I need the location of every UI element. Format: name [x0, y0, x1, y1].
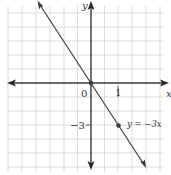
origin-label: 0: [81, 88, 87, 99]
y-axis: [88, 1, 95, 170]
y-tick-neg3-label: −3: [70, 120, 85, 131]
x-axis: [7, 80, 169, 87]
coordinate-plane: y x 0 1 −3 y = −3x: [0, 0, 171, 175]
point-1-neg3: [116, 123, 121, 128]
x-axis-label: x: [166, 88, 171, 99]
x-tick-1-label: 1: [116, 88, 122, 98]
line-equation-label: y = −3x: [126, 119, 162, 129]
point-origin: [89, 81, 94, 86]
y-axis-label: y: [81, 0, 88, 11]
